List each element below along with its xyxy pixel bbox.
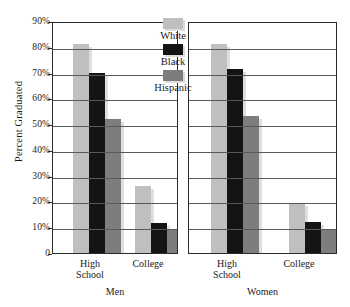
gridline <box>189 229 336 230</box>
legend-swatch-hispanic-icon <box>163 70 183 81</box>
panel-title-women: Women <box>188 286 337 297</box>
bar-body <box>151 223 167 253</box>
bar-hisp <box>105 119 121 253</box>
category-label-men-college: College <box>115 258 181 269</box>
bar-body <box>243 116 259 253</box>
bar-body <box>305 222 321 253</box>
legend-item-hispanic: Hispanic <box>138 70 208 93</box>
y-tick-label: 20% <box>6 198 50 208</box>
y-tick-label: 0 <box>6 249 50 259</box>
gridline <box>53 126 177 127</box>
gridline <box>53 152 177 153</box>
gridline <box>53 203 177 204</box>
chart-figure: Percent Graduated 90%80%70%60%50%40%30%2… <box>0 0 350 307</box>
y-axis-tick-labels: 90%80%70%60%50%40%30%20%10%0 <box>4 0 50 307</box>
y-tick-label: 40% <box>6 146 50 156</box>
bar-black <box>305 222 321 253</box>
chart-legend: White Black Hispanic <box>138 18 208 96</box>
y-axis-tick-mark <box>48 125 52 126</box>
bar-hisp <box>167 229 178 253</box>
category-label-women-college: College <box>266 258 332 269</box>
y-tick-label: 90% <box>6 17 50 27</box>
bar-black <box>227 69 243 253</box>
y-axis-tick-mark <box>48 48 52 49</box>
bar-white <box>135 186 151 253</box>
y-axis-tick-mark <box>48 177 52 178</box>
legend-label-hispanic: Hispanic <box>138 82 208 93</box>
legend-label-white: White <box>138 30 208 41</box>
y-tick-label: 80% <box>6 43 50 53</box>
bars-women <box>189 23 336 253</box>
gridline <box>189 100 336 101</box>
y-axis-tick-mark <box>48 74 52 75</box>
y-axis-tick-mark <box>48 99 52 100</box>
y-tick-label: 70% <box>6 69 50 79</box>
gridline <box>189 126 336 127</box>
gridline <box>189 49 336 50</box>
legend-label-black: Black <box>138 56 208 67</box>
gridline <box>189 75 336 76</box>
bar-body <box>135 186 151 253</box>
bar-body <box>105 119 121 253</box>
y-tick-label: 60% <box>6 95 50 105</box>
panel-women <box>188 22 337 254</box>
bar-hisp <box>243 116 259 253</box>
panel-title-men: Men <box>52 286 178 297</box>
gridline <box>189 178 336 179</box>
bar-body <box>289 203 305 253</box>
y-axis-tick-mark <box>48 22 52 23</box>
legend-swatch-white-icon <box>163 18 183 29</box>
y-axis-tick-mark <box>48 202 52 203</box>
bar-white <box>289 203 305 253</box>
gridline <box>53 100 177 101</box>
gridline <box>53 229 177 230</box>
y-axis-tick-mark <box>48 254 52 255</box>
category-label-women-high-school: High School <box>192 258 262 280</box>
y-axis-tick-mark <box>48 228 52 229</box>
legend-swatch-black-icon <box>163 44 183 55</box>
bar-body <box>227 69 243 253</box>
y-tick-label: 30% <box>6 172 50 182</box>
bar-body <box>167 229 178 253</box>
gridline <box>189 152 336 153</box>
bar-hisp <box>321 230 337 253</box>
legend-item-white: White <box>138 18 208 41</box>
y-tick-label: 50% <box>6 120 50 130</box>
bar-black <box>151 223 167 253</box>
gridline <box>53 178 177 179</box>
y-axis-tick-mark <box>48 151 52 152</box>
gridline <box>189 203 336 204</box>
bar-body <box>321 230 337 253</box>
y-tick-label: 10% <box>6 223 50 233</box>
legend-item-black: Black <box>138 44 208 67</box>
